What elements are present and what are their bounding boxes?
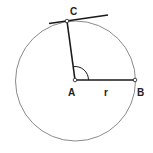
- label-r: r: [104, 87, 108, 98]
- label-b: B: [137, 87, 144, 98]
- point-b: [133, 78, 137, 82]
- tangent-line: [49, 15, 108, 24]
- label-a: A: [68, 87, 75, 98]
- radius-ac: [67, 21, 75, 80]
- point-c: [65, 19, 69, 23]
- point-a: [73, 78, 77, 82]
- circle-tangent-diagram: A B C r: [0, 0, 153, 153]
- label-c: C: [70, 6, 77, 17]
